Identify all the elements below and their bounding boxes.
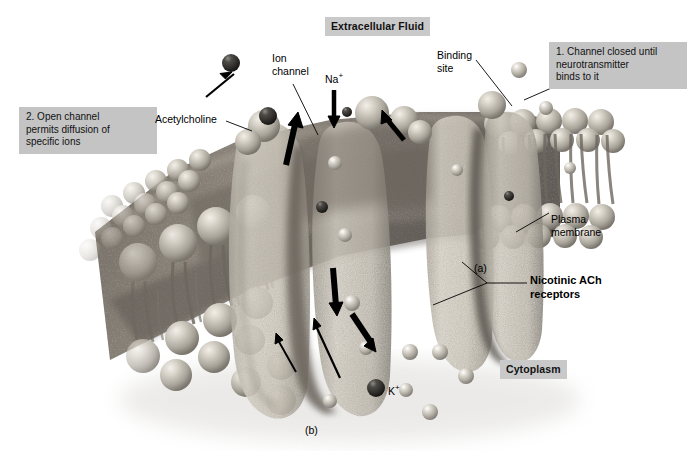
- potassium-ion: [316, 201, 328, 213]
- ion-channel-label: Ion channel: [272, 52, 309, 77]
- potassium-ion-charge: +: [395, 383, 400, 392]
- sodium-ion: [344, 295, 360, 311]
- potassium-ion: [259, 107, 277, 125]
- sodium-influx-arrow-channel: [333, 268, 336, 306]
- binding-site-label: Binding site: [437, 49, 472, 74]
- sodium-ion: [539, 101, 553, 115]
- extracellular-fluid-label: Extracellular Fluid: [325, 17, 430, 36]
- potassium-ion: [342, 107, 352, 117]
- acetylcholine-label: Acetylcholine: [155, 113, 217, 126]
- sodium-ion: [564, 162, 576, 174]
- sodium-ion: [338, 228, 352, 242]
- sodium-ion: [458, 368, 474, 384]
- sodium-ion-label: Na+: [325, 71, 343, 85]
- potassium-ion: [222, 54, 240, 72]
- sodium-ion-charge: +: [338, 71, 343, 80]
- potassium-efflux-arrow-top: [206, 74, 234, 97]
- nicotinic-ach-receptors-label: Nicotinic ACh receptors: [530, 274, 602, 301]
- sodium-ion: [402, 344, 418, 360]
- potassium-ion: [367, 379, 385, 397]
- callout-step-1: 1. Channel closed until neurotransmitter…: [549, 42, 687, 89]
- panel-label-b: (b): [305, 424, 318, 437]
- cytoplasm-label: Cytoplasm: [500, 360, 567, 379]
- sodium-ion: [511, 62, 527, 78]
- arrowhead: [288, 112, 303, 128]
- panel-label-a: (a): [474, 262, 487, 275]
- sodium-ion: [432, 344, 448, 360]
- figure-canvas: Extracellular Fluid Cytoplasm 1. Channel…: [0, 0, 693, 468]
- plasma-membrane-label: Plasma membrane: [551, 213, 601, 238]
- callout-step-2: 2. Open channel permits diffusion of spe…: [19, 107, 157, 154]
- sodium-ion: [451, 164, 463, 176]
- potassium-ion: [504, 191, 514, 201]
- sodium-ion-label-text: Na: [325, 73, 338, 85]
- sodium-ion: [323, 394, 337, 408]
- sodium-ion: [422, 404, 438, 420]
- acetylcholine-sphere: [408, 120, 432, 144]
- sodium-ion: [328, 156, 342, 170]
- binding-site-sphere: [478, 91, 506, 119]
- acetylcholine-sphere: [235, 129, 261, 155]
- potassium-ion-label-text: K: [388, 385, 395, 397]
- receptor-closed-right: [426, 112, 544, 372]
- potassium-ion-label: K+: [388, 383, 400, 397]
- sodium-ion: [399, 383, 413, 397]
